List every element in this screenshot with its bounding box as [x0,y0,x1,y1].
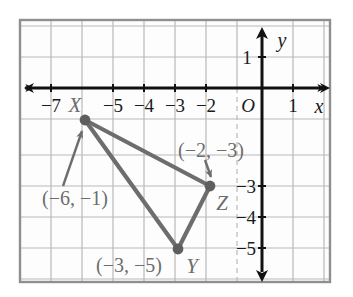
vertex-point-y [173,244,184,255]
vertex-label-x: X [69,95,82,116]
vertex-label-y: Y [186,256,198,277]
x-tick-label-neg5: −5 [103,96,123,115]
x-tick-label-neg2: −2 [196,96,216,115]
graph-canvas [0,0,353,297]
y-tick-label-neg3: −3 [236,177,256,196]
coord-label-y: (−3, −5) [96,255,162,275]
y-tick-label-neg5: −5 [236,239,256,258]
y-tick-label-neg4: −4 [236,208,256,227]
coord-label-z: (−2, −3) [178,140,244,160]
coordinate-plane-figure: −7 −5 −4 −3 −2 1 O x y 1 −3 −4 −5 X Y Z … [0,0,353,297]
x-tick-label-neg4: −4 [134,96,154,115]
y-tick-label-pos1: 1 [242,48,252,67]
origin-label: O [241,96,255,115]
x-axis-variable-label: x [315,96,324,116]
vertex-label-z: Z [216,193,228,214]
y-axis-variable-label: y [278,30,287,50]
coord-label-x: (−6, −1) [42,188,108,208]
x-tick-label-neg7: −7 [41,96,61,115]
x-tick-label-pos1: 1 [288,96,298,115]
x-tick-label-neg3: −3 [165,96,185,115]
vertex-point-z [205,181,216,192]
